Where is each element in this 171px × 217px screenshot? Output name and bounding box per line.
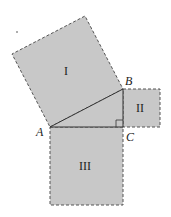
- vertex-B-label: B: [125, 74, 133, 88]
- square-I-label: I: [64, 64, 68, 78]
- square-III-label: III: [79, 159, 91, 173]
- stray-dot: [16, 31, 18, 33]
- square-II-label: II: [136, 101, 144, 115]
- pythagorean-diagram: I II III A B C: [0, 0, 171, 217]
- vertex-C-label: C: [126, 130, 135, 144]
- vertex-A-label: A: [35, 125, 44, 139]
